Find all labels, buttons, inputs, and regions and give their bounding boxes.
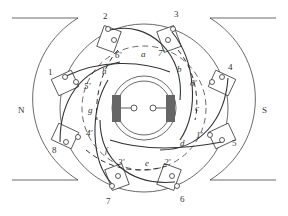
slot-label-2: 2 <box>103 11 108 21</box>
dc-machine-winding-diagram: N S 1 2 3 4 5 6 7 8 1' 2' 3' 4' 5' 6' 7'… <box>0 0 288 216</box>
brush-left <box>112 95 121 122</box>
coil-label-h: h <box>102 66 107 76</box>
slot-label-8: 8 <box>52 145 57 155</box>
primed-label-4: 4' <box>86 128 94 138</box>
coil-label-a: a <box>141 49 146 59</box>
primed-label-7: 7' <box>158 48 166 58</box>
slot-label-7: 7 <box>106 196 111 206</box>
primed-label-5: 5' <box>84 81 92 91</box>
brush-assembly <box>112 95 175 122</box>
coil-label-d: d <box>180 138 185 148</box>
slot-label-3: 3 <box>174 9 179 19</box>
diagram-canvas: N S 1 2 3 4 5 6 7 8 1' 2' 3' 4' 5' 6' 7'… <box>0 0 288 216</box>
slot-label-6: 6 <box>180 194 185 204</box>
coil-label-b: b <box>177 64 182 74</box>
primed-label-2: 2' <box>164 157 172 167</box>
south-pole-outline <box>210 18 276 180</box>
coil-label-c: c <box>195 103 199 113</box>
slot-label-4: 4 <box>228 62 233 72</box>
primed-label-3: 3' <box>117 157 126 167</box>
primed-label-8: 8' <box>190 78 198 88</box>
coil-label-e: e <box>145 158 149 168</box>
brush-right <box>166 95 175 122</box>
slot-label-1: 1 <box>48 67 53 77</box>
slot-label-5: 5 <box>232 138 237 148</box>
primed-label-1: 1' <box>196 130 204 140</box>
primed-label-6: 6' <box>115 50 123 60</box>
north-pole-label: N <box>18 105 25 115</box>
coil-label-g: g <box>88 105 93 115</box>
south-pole-label: S <box>262 105 267 115</box>
north-pole-outline <box>12 18 78 180</box>
